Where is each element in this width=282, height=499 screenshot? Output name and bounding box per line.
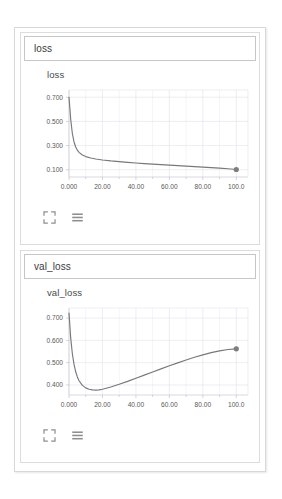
chart-plot-val-loss[interactable]: 0.4000.5000.6000.7000.00020.0040.0060.00… [27, 303, 255, 421]
svg-text:0.500: 0.500 [46, 118, 63, 125]
expand-icon[interactable] [43, 429, 56, 442]
chart-toolbar-loss [43, 211, 84, 224]
chart-title: loss [47, 70, 64, 80]
svg-text:20.00: 20.00 [94, 401, 111, 408]
svg-text:0.000: 0.000 [61, 401, 78, 408]
card-body-val-loss: val_loss 0.4000.5000.6000.7000.00020.004… [21, 281, 259, 462]
chart-toolbar-val-loss [43, 429, 84, 442]
metric-card-val-loss[interactable]: val_loss val_loss 0.4000.5000.6000.7000.… [20, 250, 260, 463]
svg-text:0.100: 0.100 [46, 166, 63, 173]
card-header-loss[interactable]: loss [24, 36, 256, 61]
line-chart-svg: 0.1000.3000.5000.7000.00020.0040.0060.00… [27, 85, 255, 203]
metrics-panel-frame: loss loss 0.1000.3000.5000.7000.00020.00… [14, 27, 266, 472]
metric-card-loss[interactable]: loss loss 0.1000.3000.5000.7000.00020.00… [20, 32, 260, 245]
card-header-val-loss[interactable]: val_loss [24, 254, 256, 279]
chart-title: val_loss [47, 288, 82, 298]
line-chart-svg: 0.4000.5000.6000.7000.00020.0040.0060.00… [27, 303, 255, 421]
svg-text:100.0: 100.0 [228, 183, 245, 190]
svg-text:40.00: 40.00 [128, 401, 145, 408]
chart-plot-loss[interactable]: 0.1000.3000.5000.7000.00020.0040.0060.00… [27, 85, 255, 203]
svg-text:20.00: 20.00 [94, 183, 111, 190]
svg-text:40.00: 40.00 [128, 183, 145, 190]
svg-text:60.00: 60.00 [161, 401, 178, 408]
hamburger-menu-icon[interactable] [71, 211, 84, 224]
svg-text:0.700: 0.700 [46, 314, 63, 321]
svg-text:0.600: 0.600 [46, 337, 63, 344]
chart-render-group: 0.1000.3000.5000.7000.00020.0040.0060.00… [46, 90, 248, 190]
expand-icon[interactable] [43, 211, 56, 224]
chart-render-group: 0.4000.5000.6000.7000.00020.0040.0060.00… [46, 308, 248, 408]
svg-text:0.300: 0.300 [46, 142, 63, 149]
svg-text:100.0: 100.0 [228, 401, 245, 408]
card-header-label: val_loss [25, 262, 71, 272]
svg-text:0.000: 0.000 [61, 183, 78, 190]
card-header-label: loss [25, 44, 52, 54]
svg-text:60.00: 60.00 [161, 183, 178, 190]
card-body-loss: loss 0.1000.3000.5000.7000.00020.0040.00… [21, 63, 259, 244]
svg-text:0.500: 0.500 [46, 359, 63, 366]
svg-text:80.00: 80.00 [195, 401, 212, 408]
scalars-panel-root: loss loss 0.1000.3000.5000.7000.00020.00… [0, 0, 282, 499]
svg-text:0.400: 0.400 [46, 381, 63, 388]
hamburger-menu-icon[interactable] [71, 429, 84, 442]
svg-text:80.00: 80.00 [195, 183, 212, 190]
svg-text:0.700: 0.700 [46, 94, 63, 101]
